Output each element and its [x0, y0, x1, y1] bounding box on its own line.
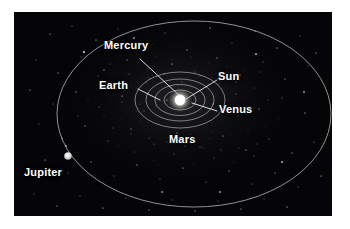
- label-mercury: Mercury: [104, 40, 148, 51]
- figure-root: Mercury Earth Sun Venus Mars Jupiter: [0, 0, 350, 229]
- label-earth: Earth: [99, 80, 128, 91]
- sun-core: [175, 95, 185, 105]
- solar-system-diagram: Mercury Earth Sun Venus Mars Jupiter: [14, 12, 332, 216]
- starfield-and-orbits: [14, 12, 332, 216]
- label-venus: Venus: [219, 104, 252, 115]
- label-mars: Mars: [169, 134, 195, 145]
- label-jupiter: Jupiter: [24, 167, 62, 178]
- label-sun: Sun: [218, 71, 239, 82]
- jupiter-planet: [64, 152, 72, 160]
